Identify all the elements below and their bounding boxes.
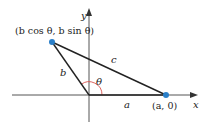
side-b-label: b: [60, 67, 66, 78]
point-b-cos-sin: [49, 39, 55, 45]
side-a-label: a: [124, 99, 130, 110]
angle-theta-label: θ: [96, 76, 102, 87]
point-b-cos-sin-label: (b cos θ, b sin θ): [15, 25, 94, 36]
triangle-diagram: y x (b cos θ, b sin θ) (a, 0) a b c θ: [0, 0, 210, 128]
y-axis-label: y: [80, 10, 87, 21]
y-axis-arrow-icon: [86, 8, 92, 16]
side-c-label: c: [111, 54, 117, 65]
triangle: [52, 42, 166, 95]
side-c: [52, 42, 166, 95]
x-axis-arrow-icon: [190, 92, 198, 98]
point-a-0-label: (a, 0): [152, 100, 177, 111]
point-a-0: [163, 92, 169, 98]
x-axis-label: x: [193, 99, 199, 110]
